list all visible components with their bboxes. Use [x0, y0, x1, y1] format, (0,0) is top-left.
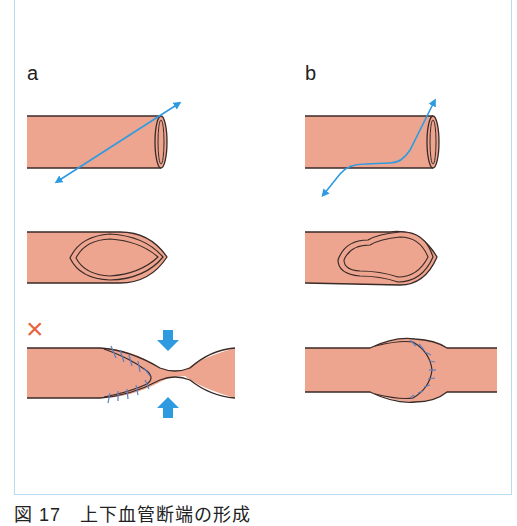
vessel-a-stenosis: [27, 330, 235, 418]
compression-arrow-down-icon: [157, 330, 179, 351]
vessel-b-s-cut: [305, 102, 439, 194]
figure-caption: 図 17 上下血管断端の形成: [14, 500, 251, 526]
vessel-b-good-anastomosis: [305, 338, 497, 402]
vessel-a-oblique-cut: [27, 104, 178, 181]
wrong-mark: ×: [26, 312, 44, 345]
vessel-b-irregular-end: [305, 232, 437, 285]
compression-arrow-up-icon: [157, 397, 179, 418]
vessel-a-oval-end: [27, 232, 167, 283]
